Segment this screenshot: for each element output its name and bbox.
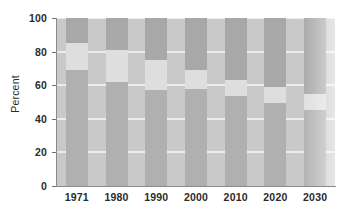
bar-segment-1990-bottom-segment[interactable] (145, 90, 167, 186)
bar-segment-2010-bottom-segment[interactable] (225, 96, 247, 186)
y-tick-mark-40 (52, 119, 56, 120)
bar-segment-1990-middle-segment[interactable] (145, 60, 167, 90)
plot-area (57, 18, 335, 186)
y-tick-label-20: 20 (35, 147, 47, 158)
chart-figure: Percent 020406080100 1971198019902000201… (0, 0, 351, 217)
bar-1971[interactable] (66, 18, 88, 186)
bar-1980[interactable] (106, 18, 128, 186)
bar-segment-2010-middle-segment[interactable] (225, 80, 247, 96)
bar-segment-2030-middle-segment[interactable] (304, 94, 326, 110)
x-axis-line (56, 186, 336, 187)
y-tick-label-60: 60 (35, 80, 47, 91)
bar-2010[interactable] (225, 18, 247, 186)
x-tick-label-2030: 2030 (295, 192, 335, 203)
bar-segment-1980-top-segment[interactable] (106, 18, 128, 50)
bar-segment-2030-bottom-segment[interactable] (304, 110, 326, 186)
y-axis-title: Percent (9, 59, 21, 129)
x-tick-label-2000: 2000 (176, 192, 216, 203)
bar-segment-1980-middle-segment[interactable] (106, 50, 128, 82)
y-tick-mark-80 (52, 52, 56, 53)
x-tick-label-1971: 1971 (57, 192, 97, 203)
bar-segment-1971-middle-segment[interactable] (66, 43, 88, 70)
x-tick-label-1980: 1980 (97, 192, 137, 203)
bar-2000[interactable] (185, 18, 207, 186)
bar-segment-2030-top-segment[interactable] (304, 18, 326, 94)
bar-segment-2000-top-segment[interactable] (185, 18, 207, 70)
bar-segment-2020-bottom-segment[interactable] (264, 103, 286, 186)
x-tick-label-2020: 2020 (255, 192, 295, 203)
bar-segment-2000-middle-segment[interactable] (185, 70, 207, 89)
y-tick-mark-20 (52, 152, 56, 153)
y-tick-label-0: 0 (41, 181, 47, 192)
bar-segment-2020-top-segment[interactable] (264, 18, 286, 87)
bar-segment-2000-bottom-segment[interactable] (185, 89, 207, 186)
y-tick-mark-100 (52, 18, 56, 19)
bar-1990[interactable] (145, 18, 167, 186)
y-tick-label-80: 80 (35, 47, 47, 58)
bar-segment-2010-top-segment[interactable] (225, 18, 247, 80)
y-tick-mark-60 (52, 85, 56, 86)
bar-segment-1971-top-segment[interactable] (66, 18, 88, 43)
x-tick-label-1990: 1990 (136, 192, 176, 203)
bar-segment-1971-bottom-segment[interactable] (66, 70, 88, 186)
bar-segment-1980-bottom-segment[interactable] (106, 82, 128, 186)
bar-2030[interactable] (304, 18, 326, 186)
x-tick-label-2010: 2010 (216, 192, 256, 203)
bar-segment-2020-middle-segment[interactable] (264, 87, 286, 103)
y-tick-mark-0 (52, 186, 56, 187)
bar-2020[interactable] (264, 18, 286, 186)
y-tick-label-40: 40 (35, 114, 47, 125)
bar-segment-1990-top-segment[interactable] (145, 18, 167, 60)
y-tick-label-100: 100 (29, 13, 47, 24)
